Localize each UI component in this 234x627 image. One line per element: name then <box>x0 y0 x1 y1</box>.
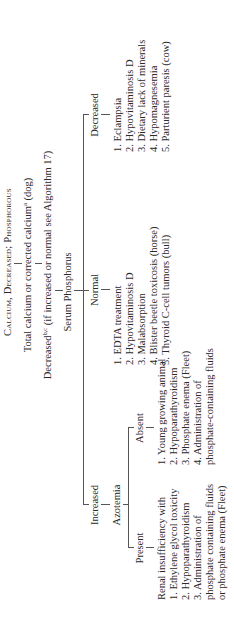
connector-line <box>101 289 110 290</box>
branch-increased-label: Increased <box>89 485 101 525</box>
list-item: 2. Hypoparathyroidism <box>168 348 180 465</box>
azotemia-absent-list: 1. Young growing animal 2. Hypoparathyro… <box>156 348 216 465</box>
list-item: 5. Parturient paresis (cow) <box>160 40 172 152</box>
list-item: 5. Thyroid C-cell tumors (bull) <box>160 226 172 365</box>
azotemia-bracket <box>128 427 129 548</box>
list-item: 1. EDTA treatment <box>112 226 124 365</box>
diagram-title: Calcium, Decreased; Phosphorous <box>2 188 14 336</box>
list-item: 2. Hypovitaminosis D <box>124 226 136 365</box>
present-label: Present <box>134 533 146 564</box>
list-item: 2. Hypoparathyroidism <box>180 484 192 600</box>
absent-label: Absent <box>134 413 146 443</box>
algorithm-diagram: Calcium, Decreased; Phosphorous Total ca… <box>0 0 234 627</box>
list-item: or phosphate enema (Fleet) <box>216 484 228 600</box>
connector-line <box>101 504 110 505</box>
branch-bracket <box>83 114 84 505</box>
list-item: 1. Young growing animal <box>156 348 168 465</box>
step-serum-phosphorus: Serum Phosphorus <box>62 252 74 331</box>
list-item: 2. Hypovitaminosis D <box>124 40 136 152</box>
list-item: phosphate-containing fluids <box>204 348 216 465</box>
branch-normal-label: Normal <box>89 274 101 306</box>
azotemia-label: Azotemia <box>111 485 123 526</box>
decreased-causes-list: 1. Eclampsia 2. Hypovitaminosis D 3. Die… <box>112 40 172 152</box>
connector-line <box>101 114 110 115</box>
connector-line <box>14 263 22 264</box>
connector-line <box>146 427 154 428</box>
list-item: 3. Malabsorption <box>136 226 148 365</box>
list-item: 4. Hypomagnesemia <box>148 40 160 152</box>
list-item: 3. Dietary lack of minerals <box>136 40 148 152</box>
azotemia-present-list: Renal insufficiency with 1. Ethylene gly… <box>156 484 228 600</box>
list-item: 1. Ethylene glycol toxicity <box>168 484 180 600</box>
branch-decreased-label: Decreased <box>89 93 101 137</box>
connector-line <box>74 290 83 291</box>
step-decreased: Decreasedb,c (if increased or normal see… <box>42 151 54 379</box>
list-item: 4. Administration of <box>192 348 204 465</box>
list-item: Renal insufficiency with <box>156 484 168 600</box>
normal-causes-list: 1. EDTA treatment 2. Hypovitaminosis D 3… <box>112 226 172 365</box>
list-item: phosphate containing fluids <box>204 484 216 600</box>
list-item: 3. Phosphate enema (Fleet) <box>180 348 192 465</box>
connector-line <box>35 263 42 264</box>
step-total-calcium: Total calcium or corrected calciuma (dog… <box>22 178 34 352</box>
list-item: 1. Eclampsia <box>112 40 124 152</box>
connector-line <box>146 547 154 548</box>
list-item: 3. Administration of <box>192 484 204 600</box>
list-item: 4. Blister beetle toxicosis (horse) <box>148 226 160 365</box>
